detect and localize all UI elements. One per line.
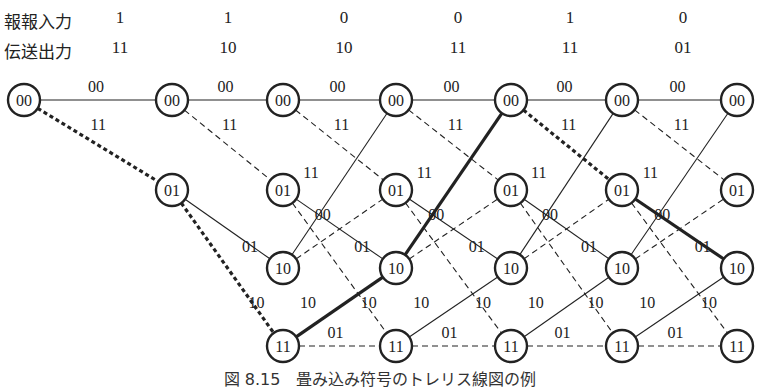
edge-output-label: 00 <box>218 78 234 95</box>
edge-output-label: 01 <box>328 324 344 341</box>
state-node-00: 00 <box>156 84 188 116</box>
trellis-diagram: 0011001101100011011011001001001101101100… <box>0 0 760 387</box>
state-node-10: 10 <box>380 252 412 284</box>
svg-text:00: 00 <box>729 92 745 109</box>
figure-caption: 図 8.15 畳み込み符号のトレリス線図の例 <box>0 366 760 387</box>
svg-text:01: 01 <box>729 182 745 199</box>
svg-text:11: 11 <box>503 338 518 355</box>
trellis-edge <box>405 203 501 333</box>
svg-text:01: 01 <box>503 182 519 199</box>
state-node-10: 10 <box>606 252 638 284</box>
svg-text:00: 00 <box>614 92 630 109</box>
svg-text:01: 01 <box>275 182 291 199</box>
edge-output-label: 10 <box>588 294 604 311</box>
edge-output-label: 11 <box>674 116 689 133</box>
svg-text:10: 10 <box>503 260 519 277</box>
edge-output-label: 01 <box>668 324 684 341</box>
svg-text:00: 00 <box>16 92 32 109</box>
edge-output-label: 01 <box>354 238 370 255</box>
trellis-edge <box>292 203 386 333</box>
state-node-11: 11 <box>721 330 753 362</box>
edge-output-label: 10 <box>701 294 717 311</box>
edge-output-label: 01 <box>555 324 571 341</box>
edge-output-label: 00 <box>315 206 331 223</box>
state-node-11: 11 <box>495 330 527 362</box>
svg-text:00: 00 <box>275 92 291 109</box>
edge-output-label: 11 <box>417 164 432 181</box>
state-node-01: 01 <box>495 174 527 206</box>
svg-text:10: 10 <box>275 260 291 277</box>
state-node-01: 01 <box>267 174 299 206</box>
svg-text:10: 10 <box>614 260 630 277</box>
trellis-edge <box>631 203 727 333</box>
edge-output-label: 11 <box>643 164 658 181</box>
state-node-11: 11 <box>267 330 299 362</box>
edge-output-label: 11 <box>334 116 349 133</box>
svg-text:10: 10 <box>388 260 404 277</box>
svg-text:00: 00 <box>164 92 180 109</box>
svg-text:01: 01 <box>164 182 180 199</box>
edge-output-label: 00 <box>330 78 346 95</box>
edge-output-label: 10 <box>413 294 429 311</box>
edge-output-label: 00 <box>444 78 460 95</box>
edge-output-label: 00 <box>654 206 670 223</box>
state-node-10: 10 <box>267 252 299 284</box>
edge-output-label: 11 <box>561 116 576 133</box>
svg-text:11: 11 <box>729 338 744 355</box>
edge-output-label: 10 <box>249 294 265 311</box>
edge-output-label: 00 <box>88 78 104 95</box>
edge-output-label: 01 <box>581 238 597 255</box>
svg-text:11: 11 <box>275 338 290 355</box>
edge-output-label: 10 <box>300 294 316 311</box>
state-node-00: 00 <box>606 84 638 116</box>
edge-output-label: 11 <box>448 116 463 133</box>
edge-output-label: 10 <box>475 294 491 311</box>
state-node-00: 00 <box>267 84 299 116</box>
state-node-11: 11 <box>380 330 412 362</box>
edge-output-label: 11 <box>303 164 318 181</box>
edge-output-label: 00 <box>670 78 686 95</box>
svg-text:01: 01 <box>388 182 404 199</box>
state-node-00: 00 <box>8 84 40 116</box>
svg-text:11: 11 <box>388 338 403 355</box>
edge-output-label: 01 <box>242 238 258 255</box>
svg-text:10: 10 <box>729 260 745 277</box>
state-node-10: 10 <box>495 252 527 284</box>
edge-output-label: 01 <box>695 238 711 255</box>
edge-output-label: 11 <box>531 164 546 181</box>
trellis-edge <box>631 113 728 255</box>
svg-text:11: 11 <box>614 338 629 355</box>
state-node-00: 00 <box>380 84 412 116</box>
state-node-00: 00 <box>721 84 753 116</box>
edge-output-label: 00 <box>428 206 444 223</box>
svg-text:00: 00 <box>388 92 404 109</box>
edge-output-label: 10 <box>361 294 377 311</box>
state-node-01: 01 <box>380 174 412 206</box>
trellis-edge <box>292 113 387 254</box>
state-node-01: 01 <box>156 174 188 206</box>
edge-output-label: 11 <box>222 116 237 133</box>
edge-output-label: 01 <box>442 324 458 341</box>
edge-output-label: 10 <box>528 294 544 311</box>
edge-output-label: 00 <box>557 78 573 95</box>
edge-output-label: 01 <box>469 238 485 255</box>
edge-output-label: 11 <box>91 116 106 133</box>
state-node-00: 00 <box>495 84 527 116</box>
state-node-11: 11 <box>606 330 638 362</box>
highlighted-path-edge <box>181 203 273 333</box>
edge-output-label: 10 <box>639 294 655 311</box>
state-node-01: 01 <box>606 174 638 206</box>
svg-text:01: 01 <box>614 182 630 199</box>
state-node-01: 01 <box>721 174 753 206</box>
svg-text:00: 00 <box>503 92 519 109</box>
state-node-10: 10 <box>721 252 753 284</box>
edge-output-label: 00 <box>542 206 558 223</box>
trellis-edge <box>520 113 613 254</box>
highlighted-path-edge <box>405 113 502 255</box>
trellis-edge <box>520 203 612 333</box>
